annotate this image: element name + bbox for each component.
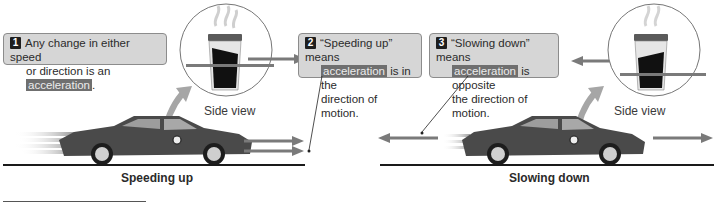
callout-number: 1 <box>10 37 21 49</box>
acceleration-arrow-right-left-panel <box>244 146 306 156</box>
highlight-term: acceleration <box>26 79 92 91</box>
callout-text: “Slowing down” means <box>436 37 530 63</box>
velocity-arrow-right-right-panel <box>653 133 714 143</box>
ground-line-left <box>3 164 305 166</box>
car-speeding-up <box>14 110 274 170</box>
callout-1: 1Any change in either speed or direction… <box>3 33 167 65</box>
velocity-arrow-right-left-panel <box>244 136 306 146</box>
callout-text: “Speeding up” means <box>305 37 392 63</box>
callout-2: 2“Speeding up” means acceleration is in … <box>298 33 422 78</box>
callout-number: 2 <box>305 37 316 49</box>
ground-line-right <box>380 164 714 166</box>
callout-text: Any change in either speed <box>10 37 130 63</box>
cup-inset-right <box>604 2 704 102</box>
leader-line-2 <box>300 76 340 156</box>
caption-speeding-up: Speeding up <box>121 171 193 185</box>
callout-3: 3“Slowing down” means acceleration is op… <box>429 33 559 78</box>
acceleration-arrow-left-right-panel <box>378 133 440 143</box>
car-slowing-down <box>442 110 662 170</box>
callout-text: or direction is an <box>26 65 110 77</box>
caption-slowing-down: Slowing down <box>509 171 590 185</box>
callout-text: . <box>92 79 95 91</box>
callout-number: 3 <box>436 37 447 49</box>
footnote-rule <box>3 201 146 202</box>
